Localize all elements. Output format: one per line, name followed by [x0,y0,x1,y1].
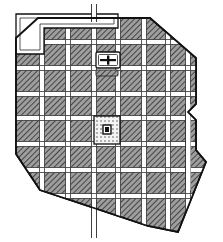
east-branch-street [186,104,189,190]
city-plan-svg: Grid-plan city block layout Unfilled rec… [0,0,223,242]
temple-annex [96,70,118,76]
central-monument [105,127,109,132]
temple-structure [96,52,120,76]
forum-plaza [94,116,120,144]
city-plan-figure: Grid-plan city block layout Unfilled rec… [0,0,223,242]
